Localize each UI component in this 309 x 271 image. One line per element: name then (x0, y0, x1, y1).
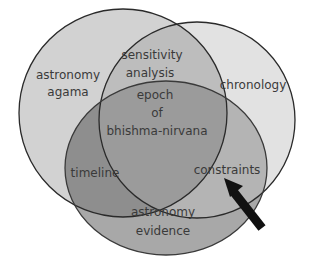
label-analysis: analysis (126, 66, 175, 80)
label-epoch: epoch (137, 88, 174, 102)
label-astronomy-agama-1: astronomy (36, 68, 100, 82)
label-sensitivity: sensitivity (121, 48, 182, 62)
label-constraints: constraints (194, 163, 261, 177)
label-of: of (151, 106, 163, 120)
label-timeline: timeline (71, 166, 120, 180)
label-bhishma-nirvana: bhishma-nirvana (106, 124, 207, 138)
label-astronomy-evidence-2: evidence (136, 224, 190, 238)
label-astronomy-evidence-1: astronomy (131, 205, 195, 219)
label-chronology: chronology (220, 78, 287, 92)
venn-diagram: astronomy agama chronology sensitivity a… (0, 0, 309, 271)
label-astronomy-agama-2: agama (47, 85, 88, 99)
